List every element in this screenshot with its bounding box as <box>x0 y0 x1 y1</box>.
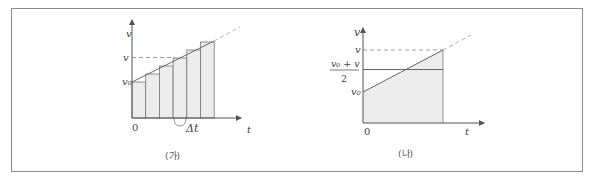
y-tick-v: v <box>355 44 361 55</box>
delta-t-loop <box>174 118 186 126</box>
mean-label-numerator: v₀ + v <box>331 58 360 69</box>
x-axis-label: t <box>465 126 470 137</box>
delta-t-label: Δt <box>185 122 199 135</box>
y-tick-v0: v₀ <box>351 86 361 97</box>
y-tick-v0: v₀ <box>122 76 132 87</box>
x-axis-label: t <box>247 124 252 135</box>
origin-label: 0 <box>364 126 370 137</box>
y-axis-label: v <box>354 26 361 39</box>
figure-canvas: v v v₀ 0 Δt t (가) v v v₀ + v 2 v₀ 0 t (나… <box>0 0 592 179</box>
velocity-line-extension <box>443 35 471 50</box>
rectangle-strips <box>132 42 214 118</box>
y-axis-label: v <box>126 28 132 39</box>
origin-label: 0 <box>132 122 138 133</box>
panel-ga: v v v₀ 0 Δt t (가) <box>122 20 252 161</box>
velocity-line-extension <box>214 27 240 41</box>
panel-na: v v v₀ + v 2 v₀ 0 t (나) <box>330 26 484 159</box>
caption-ga: (가) <box>165 151 180 161</box>
y-tick-v: v <box>123 52 129 63</box>
caption-na: (나) <box>398 149 413 159</box>
shaded-area <box>363 50 443 123</box>
mean-label-denominator: 2 <box>341 73 347 84</box>
